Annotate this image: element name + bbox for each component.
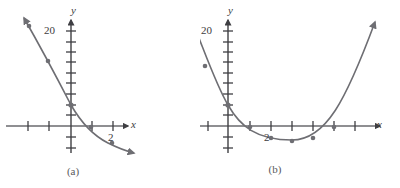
graph-a-curve xyxy=(24,18,134,153)
data-point xyxy=(27,24,32,29)
graph-panel-b xyxy=(200,0,400,188)
graph-a-y-axis xyxy=(66,20,76,153)
graph-b-y-axis-label: y xyxy=(228,4,233,16)
data-point xyxy=(46,59,51,64)
graph-a-caption: (a) xyxy=(43,165,103,177)
data-point xyxy=(203,64,208,69)
graph-a-svg xyxy=(0,0,200,188)
data-point xyxy=(311,136,316,141)
graph-a-x-axis xyxy=(6,121,128,131)
graph-panel-a xyxy=(0,0,200,188)
data-point xyxy=(332,125,337,130)
graph-b-x-axis-label: x xyxy=(377,118,382,130)
graph-b-y-tick-label-20: 20 xyxy=(201,24,212,36)
graph-b-y-axis xyxy=(223,20,233,153)
graph-a-x-axis-label: x xyxy=(131,118,136,130)
data-point xyxy=(68,102,73,107)
graph-b-svg xyxy=(200,0,400,188)
graph-b-x-axis xyxy=(200,121,380,131)
data-point xyxy=(248,125,253,130)
data-point xyxy=(225,102,230,107)
graph-a-y-axis-label: y xyxy=(71,4,76,16)
data-point xyxy=(290,139,295,144)
graph-b-caption: (b) xyxy=(245,163,305,175)
graph-b-curve xyxy=(200,18,375,140)
figure-two-graphs: y x 20 2 y x 20 2 (a) (b) xyxy=(0,0,400,188)
graph-b-x-tick-label-2: 2 xyxy=(264,131,270,143)
graph-a-x-tick-label-2: 2 xyxy=(108,131,114,143)
data-point xyxy=(89,125,94,130)
graph-a-y-tick-label-20: 20 xyxy=(44,24,55,36)
